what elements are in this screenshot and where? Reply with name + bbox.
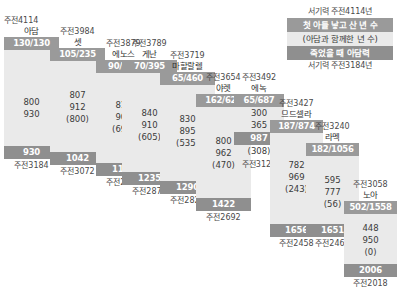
birth-year-label: 주전3789	[122, 39, 177, 49]
column-noah: 주전3058 노아 502/1558 448 950 (0) 2006 주전20…	[344, 180, 397, 289]
birth-year-label: 주전3719	[160, 51, 215, 61]
legend-birth-year: 서기력 주전4114년	[287, 6, 393, 18]
birth-year-label: 주전3240	[306, 122, 359, 132]
legend-birth-bar: 첫 아들 낳고 산 년 수	[287, 18, 393, 32]
birth-year-label: 주전3492	[234, 73, 284, 83]
legend-death-bar: 죽었을 때 아담력	[287, 46, 393, 60]
death-bar: 2006	[344, 264, 397, 277]
person-name: 마할랄렐	[160, 61, 215, 72]
person-name: 에녹	[234, 83, 284, 94]
person-name: 므드셀라	[270, 109, 323, 120]
legend-death-year: 서기력 주전3184년	[287, 60, 393, 72]
birth-year-label: 주전3984	[50, 27, 105, 37]
birth-bar: 502/1558	[344, 201, 397, 214]
birth-year-label: 주전4114	[4, 16, 59, 26]
years-after-firstborn: 448	[344, 222, 397, 235]
total-lifespan: 950	[344, 234, 397, 247]
years-with-adam: (0)	[344, 246, 397, 259]
person-name: 라멕	[306, 132, 359, 143]
lifespan-body: 448 950 (0)	[344, 214, 397, 264]
legend: 서기력 주전4114년 첫 아들 낳고 산 년 수 (아담과 함께한 년 수) …	[287, 6, 393, 72]
birth-year-label: 주전3058	[344, 180, 397, 190]
birth-year-label: 주전3427	[270, 99, 323, 109]
genealogy-chart: 주전4114 아담 130/130 800 930 930 주전3184 주전3…	[0, 0, 397, 293]
death-bar: 1422	[196, 198, 251, 211]
birth-bar: 182/1056	[306, 143, 359, 156]
death-year-label: 주전2018	[344, 277, 397, 289]
death-year-label: 주전2692	[196, 211, 251, 223]
legend-with-adam: (아담과 함께한 년 수)	[287, 32, 393, 46]
person-name: 노아	[344, 190, 397, 201]
